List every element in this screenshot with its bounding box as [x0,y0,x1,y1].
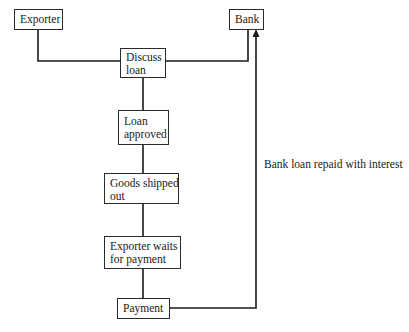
edge-label-repaid: Bank loan repaid with interest [264,158,403,171]
edge-discuss-bank [165,29,248,61]
node-exporter-label: Exporter [20,13,60,25]
arrowhead-icon [253,29,260,37]
node-payment: Payment [117,298,170,319]
node-loan-approved: Loan approved [118,110,169,145]
node-discuss-loan-line2: loan [126,64,160,77]
node-exporter-waits-line2: for payment [110,253,175,266]
node-bank: Bank [229,9,264,30]
edge-exporter-discuss [38,29,120,61]
node-goods-shipped-line2: out [110,190,173,203]
node-goods-shipped: Goods shipped out [104,173,179,204]
node-exporter-waits-line1: Exporter waits [110,240,175,253]
node-discuss-loan: Discuss loan [120,48,166,78]
node-loan-approved-line1: Loan [124,115,163,128]
node-bank-label: Bank [235,13,259,25]
node-exporter: Exporter [14,9,63,30]
edge-payment-bank [169,36,256,308]
node-exporter-waits: Exporter waits for payment [104,236,181,269]
node-discuss-loan-line1: Discuss [126,51,160,64]
node-goods-shipped-line1: Goods shipped [110,177,173,190]
node-loan-approved-line2: approved [124,128,163,141]
node-payment-label: Payment [123,302,163,314]
